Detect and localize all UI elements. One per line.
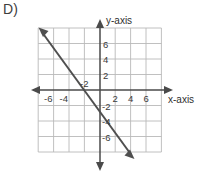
plot-line-lower-arrowhead	[125, 150, 135, 160]
y-axis-bottom-arrowhead	[96, 162, 104, 171]
y-tick-2: 2	[103, 70, 108, 81]
y-tick-neg-4: -4	[102, 116, 110, 127]
plotted-line	[39, 28, 135, 160]
y-axis-title: y-axis	[106, 15, 132, 26]
coordinate-plane-svg: 6 4 2 -2 -4 -6 -6 -4 -2 2 4 6 y-axis x-a…	[0, 0, 199, 173]
y-tick-neg-6: -6	[102, 132, 110, 143]
x-tick-neg-6: -6	[44, 93, 52, 104]
graph-figure: D)	[0, 0, 199, 173]
x-tick-neg-4: -4	[60, 93, 68, 104]
y-tick-6: 6	[103, 39, 108, 50]
x-tick-neg-2: -2	[80, 78, 88, 89]
x-axis-title: x-axis	[168, 94, 194, 105]
y-tick-neg-2: -2	[102, 101, 110, 112]
y-axis-top-arrowhead	[96, 19, 104, 28]
x-tick-6: 6	[144, 93, 149, 104]
x-tick-4: 4	[128, 93, 133, 104]
plot-line-upper-arrowhead	[39, 28, 49, 38]
x-tick-2: 2	[113, 93, 118, 104]
x-axis-right-arrowhead	[164, 86, 173, 94]
y-tick-4: 4	[103, 54, 108, 65]
x-axis-left-arrowhead	[31, 86, 40, 94]
